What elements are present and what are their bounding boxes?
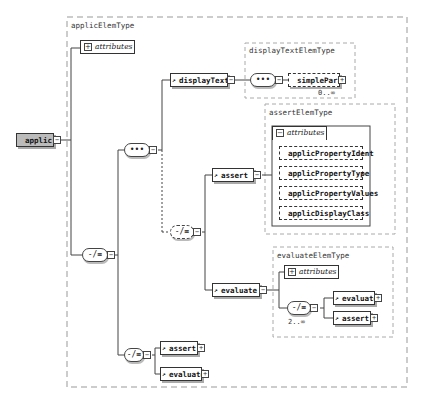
collapse-icon[interactable]: −: [276, 129, 284, 137]
assert-element[interactable]: assert ↗: [212, 168, 254, 182]
expand-toggle-icon[interactable]: +: [374, 294, 382, 302]
attributes-group-evaluate[interactable]: + attributes: [284, 265, 339, 279]
choice-compositor-icon: -/≡: [124, 348, 144, 362]
expand-icon[interactable]: +: [84, 43, 92, 51]
collapse-toggle-icon[interactable]: −: [259, 286, 267, 294]
collapse-toggle-icon[interactable]: −: [107, 251, 115, 259]
display-text-type-label: displayTextElemType: [249, 46, 335, 55]
sequence-compositor-icon: •••: [250, 73, 276, 87]
reference-arrow-icon: ↗: [172, 73, 176, 87]
simple-para-label: simplePara: [297, 76, 342, 85]
attributes-label: attributes: [95, 42, 132, 51]
attr-label: applicPropertyValues: [288, 189, 378, 198]
assert-child-element[interactable]: assert↗: [333, 311, 371, 325]
attr-applic-property-type[interactable]: applicPropertyType: [279, 166, 363, 180]
collapse-toggle-icon[interactable]: −: [227, 76, 235, 84]
assert-label: assert: [169, 344, 196, 353]
collapse-toggle-icon[interactable]: −: [149, 146, 157, 154]
attr-applic-property-values[interactable]: applicPropertyValues: [279, 186, 363, 200]
attr-applic-property-ident[interactable]: applicPropertyIdent: [279, 146, 363, 160]
display-text-label: displayText: [179, 76, 229, 85]
expand-toggle-icon[interactable]: +: [201, 370, 209, 378]
expand-toggle-icon[interactable]: +: [338, 76, 346, 84]
assert-label: assert: [221, 171, 248, 180]
collapse-toggle-icon[interactable]: −: [310, 304, 318, 312]
assert-type-label: assertElemType: [269, 108, 332, 117]
expand-icon[interactable]: +: [288, 268, 296, 276]
evaluate-element[interactable]: evaluate ↗: [212, 283, 260, 297]
evaluate-type-label: evaluateElemType: [277, 251, 349, 260]
attr-applic-display-class[interactable]: applicDisplayClass: [279, 206, 363, 220]
cardinality-label: 0..∞: [318, 89, 335, 97]
applic-label: applic: [25, 136, 52, 145]
reference-arrow-icon: ↗: [335, 311, 339, 325]
evaluate-label: evaluate: [169, 370, 205, 379]
collapse-toggle-icon[interactable]: −: [143, 351, 151, 359]
reference-arrow-icon: ↗: [335, 291, 339, 305]
collapse-toggle-icon[interactable]: −: [53, 136, 61, 144]
assert-child-label: assert: [342, 314, 369, 323]
attributes-label: attributes: [287, 128, 324, 137]
expand-toggle-icon[interactable]: +: [370, 314, 378, 322]
attributes-group-assert[interactable]: − attributes: [272, 126, 327, 140]
attributes-label: attributes: [299, 267, 336, 276]
sequence-compositor-icon: •••: [124, 143, 150, 157]
attr-label: applicPropertyIdent: [288, 149, 374, 158]
choice-compositor-icon: -/≡: [82, 248, 108, 262]
evaluate-label: evaluate: [221, 286, 257, 295]
expand-toggle-icon[interactable]: +: [197, 344, 205, 352]
collapse-toggle-icon[interactable]: −: [275, 76, 283, 84]
collapse-toggle-icon[interactable]: −: [253, 171, 261, 179]
applic-root-element[interactable]: applic: [16, 133, 54, 147]
optional-choice-compositor-icon: -/≡: [170, 225, 194, 239]
connector-lines: [0, 0, 421, 403]
reference-arrow-icon: ↗: [162, 341, 166, 355]
choice-compositor-icon: -/≡: [287, 301, 311, 315]
attributes-group-applic[interactable]: + attributes: [80, 40, 135, 54]
attr-label: applicDisplayClass: [288, 209, 369, 218]
evaluate-child-element[interactable]: evaluate↗: [333, 291, 375, 305]
cardinality-label: 2..∞: [288, 318, 305, 326]
attr-label: applicPropertyType: [288, 169, 369, 178]
assert-choice-element[interactable]: assert↗: [160, 341, 198, 355]
simple-para-element[interactable]: simplePara: [288, 73, 340, 87]
reference-arrow-icon: ↗: [162, 367, 166, 381]
display-text-element[interactable]: displayText ↗: [170, 73, 228, 87]
evaluate-choice-element[interactable]: evaluate↗: [160, 367, 202, 381]
reference-arrow-icon: ↗: [214, 283, 218, 297]
collapse-toggle-icon[interactable]: −: [193, 228, 201, 236]
evaluate-child-label: evaluate: [342, 294, 378, 303]
applic-elem-type-label: applicElemType: [71, 21, 134, 30]
reference-arrow-icon: ↗: [214, 168, 218, 182]
